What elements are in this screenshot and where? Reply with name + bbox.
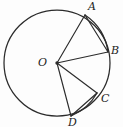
radius-od — [57, 63, 71, 116]
label-point-b: B — [111, 45, 119, 56]
chord-ab — [85, 15, 108, 52]
geometry-figure: O A B C D — [0, 0, 123, 127]
label-point-d: D — [68, 117, 77, 127]
label-point-a: A — [88, 1, 96, 12]
radius-ob — [57, 52, 108, 63]
radius-oc — [57, 63, 97, 93]
chord-dc — [71, 93, 97, 116]
label-center-o: O — [38, 57, 47, 68]
geometry-canvas — [0, 0, 123, 127]
center-point-marker — [56, 62, 58, 64]
label-point-c: C — [101, 93, 109, 104]
radius-oa — [57, 15, 85, 63]
